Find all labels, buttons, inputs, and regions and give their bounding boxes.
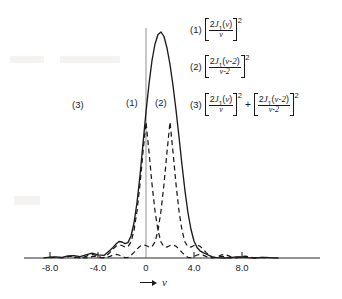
- exponent: 2: [294, 92, 298, 100]
- exponent: 2: [238, 17, 242, 25]
- tick-label-zero: 0: [143, 263, 148, 273]
- fraction: 2J1(v-2) v-2: [209, 56, 241, 77]
- fraction-denominator: v: [219, 106, 223, 115]
- fraction: 2J1(v) v: [209, 19, 234, 40]
- bracketed-expression: 2J1(v-2) v-2 2: [205, 55, 250, 78]
- exponent: 2: [238, 92, 242, 100]
- formula-legend: (1) 2J1(v) v 2 (2): [190, 14, 342, 116]
- legend-index-1: (1): [190, 25, 202, 35]
- fraction-numerator: 2J1(v-2): [209, 56, 241, 68]
- x-axis-symbol: v: [162, 277, 167, 288]
- legend-item-2: (2) 2J1(v-2) v-2 2: [190, 55, 342, 78]
- legend-index-3: (3): [190, 100, 202, 110]
- curve-label-3: (3): [72, 100, 84, 110]
- tick-label-neg8: -8.0: [42, 263, 58, 273]
- arrow-right-icon: [140, 279, 158, 286]
- x-axis-title: v: [140, 277, 167, 288]
- tick-label-neg4: -4.0: [90, 263, 106, 273]
- curve-label-1: (1): [126, 98, 138, 108]
- curve-label-2: (2): [155, 98, 167, 108]
- legend-index-2: (2): [190, 62, 202, 72]
- bracketed-expression: 2J1(v) v 2: [205, 18, 242, 41]
- bracketed-expression: 2J1(v-2) v-2 2: [254, 93, 299, 116]
- airy-curve-2: [74, 122, 266, 258]
- plus-operator: +: [245, 99, 251, 110]
- fraction-numerator: 2J1(v-2): [258, 94, 290, 106]
- fraction: 2J1(v) v: [209, 94, 234, 115]
- fraction-numerator: 2J1(v): [209, 94, 234, 106]
- fraction-numerator: 2J1(v): [209, 19, 234, 31]
- fraction-denominator: v-2: [269, 106, 279, 115]
- tick-label-pos4: 4.0: [187, 263, 200, 273]
- legend-item-3: (3) 2J1(v) v 2 + 2J1(v-2): [190, 93, 342, 116]
- fraction-denominator: v-2: [220, 68, 230, 77]
- bracketed-expression: 2J1(v) v 2: [205, 93, 242, 116]
- exponent: 2: [245, 54, 249, 62]
- fraction: 2J1(v-2) v-2: [258, 94, 290, 115]
- airy-intensity-figure: (3) (1) (2) -8.0 -4.0 0 4.0 8.0 v (1) 2J…: [0, 0, 342, 299]
- tick-label-pos8: 8.0: [235, 263, 248, 273]
- legend-item-1: (1) 2J1(v) v 2: [190, 18, 342, 41]
